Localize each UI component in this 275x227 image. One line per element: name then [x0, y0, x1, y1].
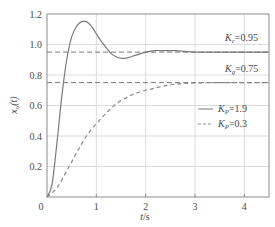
y-tick-label: 0.4	[30, 131, 43, 142]
step-response-chart: 0.20.40.60.81.01.201234 xo(t) t/s Kc=0.9…	[0, 0, 275, 227]
x-axis-label: t/s	[140, 211, 150, 222]
x-tick-label: 4	[242, 201, 247, 212]
y-tick-label: 0.6	[30, 100, 43, 111]
x-tick-label: 3	[193, 201, 198, 212]
y-axis-label: xo(t)	[8, 96, 21, 115]
y-tick-label: 0.8	[30, 70, 43, 81]
legend: KP=1.9 KP=0.3	[198, 103, 247, 131]
ref-label-kg: Kg=0.75	[224, 63, 258, 76]
x-tick-label: 1	[94, 201, 99, 212]
y-tick-label: 1.2	[30, 9, 43, 20]
ref-label-kc: Kc=0.95	[224, 32, 258, 45]
y-tick-label: 0.2	[30, 161, 43, 172]
y-tick-label: 1.0	[30, 39, 43, 50]
tick-labels: 0.20.40.60.81.01.201234	[30, 9, 247, 213]
x-tick-label: 0	[39, 201, 44, 212]
series-line	[47, 83, 269, 197]
legend-label-kp-1-9: KP=1.9	[217, 103, 247, 116]
legend-label-kp-0-3: KP=0.3	[217, 118, 247, 131]
